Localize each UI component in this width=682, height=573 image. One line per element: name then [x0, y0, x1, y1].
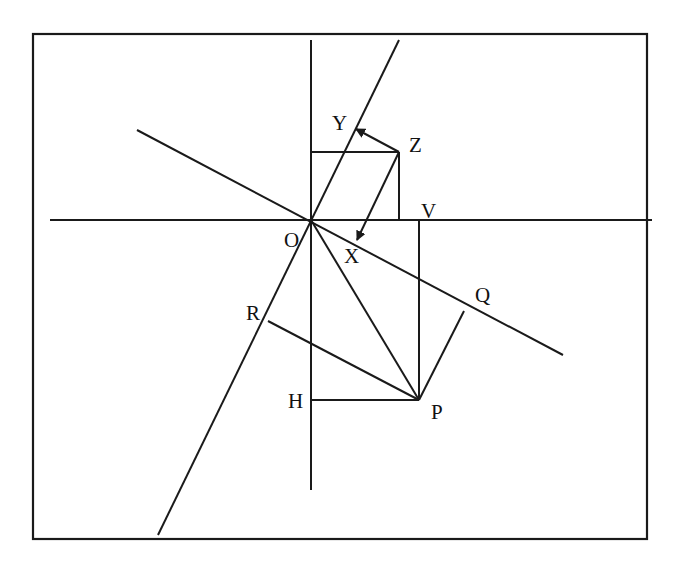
arrow-z-to-x	[357, 152, 399, 240]
perpendicular-p-to-oq	[419, 311, 464, 400]
label-z: Z	[409, 133, 422, 157]
oblique-axis-oq	[137, 130, 563, 355]
label-y: Y	[332, 111, 347, 135]
label-x: X	[344, 244, 359, 268]
label-o: O	[284, 228, 299, 252]
label-h: H	[288, 389, 303, 413]
oblique-axis-or	[158, 40, 399, 535]
diagram-frame	[33, 34, 647, 539]
label-p: P	[431, 400, 443, 424]
label-r: R	[246, 301, 260, 325]
segment-op	[311, 220, 419, 400]
arrow-z-to-y	[356, 129, 399, 152]
geometry-diagram: O X Y Z V Q R H P	[0, 0, 682, 573]
label-q: Q	[475, 283, 490, 307]
label-v: V	[421, 199, 436, 223]
